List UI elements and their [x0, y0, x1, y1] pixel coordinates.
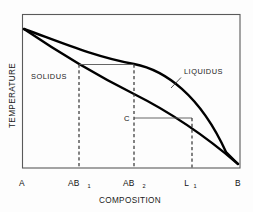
diagram-canvas: SOLIDUS LIQUIDUS C TEMPERATURE A AB 1 AB… — [0, 0, 253, 212]
x-tick-l1-sub: 1 — [193, 183, 196, 189]
x-tick-ab1-base: AB — [68, 178, 80, 188]
x-axis-title: COMPOSITION — [99, 196, 161, 205]
plot-frame — [23, 15, 241, 169]
phase-diagram-figure: SOLIDUS LIQUIDUS C TEMPERATURE A AB 1 AB… — [0, 0, 253, 212]
x-tick-l1: L 1 — [184, 172, 196, 189]
liquidus-label: LIQUIDUS — [184, 67, 223, 76]
x-tick-l1-base: L — [184, 178, 189, 188]
x-tick-ab1-sub: 1 — [87, 183, 90, 189]
x-tick-b: B — [235, 178, 241, 188]
x-tick-ab2: AB 2 — [123, 172, 146, 189]
x-tick-ab2-base: AB — [123, 178, 135, 188]
point-c-label: C — [124, 114, 130, 123]
solidus-curve — [24, 29, 238, 164]
y-axis-title: TEMPERATURE — [8, 63, 17, 128]
x-tick-a: A — [19, 178, 25, 188]
x-tick-ab2-sub: 2 — [142, 183, 145, 189]
x-tick-ab1: AB 1 — [68, 172, 91, 189]
solidus-label: SOLIDUS — [31, 72, 67, 81]
